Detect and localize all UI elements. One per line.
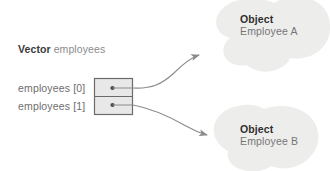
arrow-cell1-to-employee-b xyxy=(133,105,207,135)
employee-a-kind: Object xyxy=(240,13,298,25)
arrow-cell0-to-employee-a xyxy=(133,55,199,88)
employee-a-name: Employee A xyxy=(240,25,298,37)
vector-keyword: Vector xyxy=(18,43,51,55)
diagram-canvas: Vector employees employees [0] employees… xyxy=(0,0,330,171)
employee-b-kind: Object xyxy=(240,123,298,135)
array-cell-label-1: employees [1] xyxy=(18,101,85,112)
employee-b-name: Employee B xyxy=(240,135,298,147)
vector-declaration-label: Vector employees xyxy=(18,44,105,55)
employee-b-label: Object Employee B xyxy=(240,123,298,147)
employee-a-label: Object Employee A xyxy=(240,13,298,37)
vector-variable-name: employees xyxy=(54,43,106,55)
array-cell-label-0: employees [0] xyxy=(18,83,85,94)
